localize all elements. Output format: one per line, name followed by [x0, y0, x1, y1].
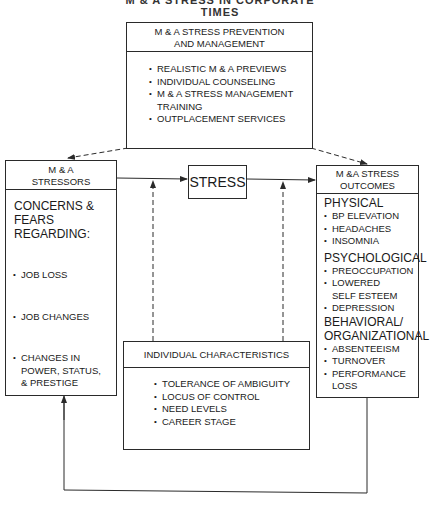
arrow-stress-to-outcomes [247, 179, 315, 180]
prevention-box-header: M & A STRESS PREVENTION AND MANAGEMENT [127, 23, 312, 52]
stressors-title-line1: M & A [6, 164, 116, 176]
list-item: LOCUS OF CONTROL [154, 391, 309, 404]
list-item: REALISTIC M & A PREVIEWS [149, 63, 312, 76]
stress-box: STRESS [188, 165, 247, 199]
list-item: NEED LEVELS [154, 403, 309, 416]
list-item: JOB LOSS [13, 269, 116, 282]
outcomes-content: PHYSICAL BP ELEVATION HEADACHES INSOMNIA… [317, 194, 418, 393]
outcomes-box-header: M &A STRESS OUTCOMES [317, 166, 418, 194]
list-item: TURNOVER [324, 355, 418, 368]
outcomes-title-line2: OUTCOMES [317, 180, 418, 192]
list-item: INDIVIDUAL COUNSELING [149, 76, 312, 89]
dashed-arrow-prevention-to-outcomes [311, 148, 367, 164]
list-item: INSOMNIA [324, 235, 418, 248]
individual-characteristics-box: INDIVIDUAL CHARACTERISTICS TOLERANCE OF … [123, 341, 310, 450]
list-item: CHANGES IN POWER, STATUS, & PRESTIGE [13, 352, 109, 390]
list-item: CAREER STAGE [154, 416, 309, 429]
individual-box-header: INDIVIDUAL CHARACTERISTICS [124, 342, 309, 368]
prevention-title-line2: AND MANAGEMENT [127, 38, 312, 50]
list-item: PERFORMANCE LOSS [324, 368, 407, 393]
individual-list: TOLERANCE OF AMBIGUITY LOCUS OF CONTROL … [154, 378, 309, 428]
outcomes-physical-list: BP ELEVATION HEADACHES INSOMNIA [324, 210, 418, 248]
outcomes-group-heading: PHYSICAL [324, 196, 418, 210]
outcomes-group-heading: BEHAVIORAL/ ORGANIZATIONAL [324, 315, 424, 343]
outcomes-behavioral-list: ABSENTEEISM TURNOVER PERFORMANCE LOSS [324, 343, 418, 393]
outcomes-box: M &A STRESS OUTCOMES PHYSICAL BP ELEVATI… [316, 165, 419, 398]
list-item: LOWERED SELF ESTEEM [324, 277, 404, 302]
list-item: PREOCCUPATION [324, 265, 418, 278]
list-item: DEPRESSION [324, 302, 418, 315]
stressors-title-line2: STRESSORS [6, 176, 116, 188]
list-item: BP ELEVATION [324, 210, 418, 223]
stressors-box: M & A STRESSORS CONCERNS & FEARS REGARDI… [5, 160, 117, 396]
prevention-title-line1: M & A STRESS PREVENTION [127, 26, 312, 38]
outcomes-title-line1: M &A STRESS [317, 168, 418, 180]
stressors-list: JOB LOSS JOB CHANGES CHANGES IN POWER, S… [13, 269, 116, 390]
list-item: ABSENTEEISM [324, 343, 418, 356]
stressors-intro: CONCERNS & FEARS REGARDING: [14, 199, 94, 241]
outcomes-psychological-list: PREOCCUPATION LOWERED SELF ESTEEM DEPRES… [324, 265, 418, 315]
list-item-text: M & A STRESS MANAGEMENT TRAINING [157, 88, 293, 112]
list-item: TOLERANCE OF AMBIGUITY [154, 378, 309, 391]
stressors-box-header: M & A STRESSORS [6, 161, 116, 190]
list-item: HEADACHES [324, 223, 418, 236]
arrow-stressors-to-stress [117, 178, 187, 179]
prevention-list: REALISTIC M & A PREVIEWS INDIVIDUAL COUN… [149, 63, 312, 126]
list-item: JOB CHANGES [13, 311, 116, 324]
list-item: OUTPLACEMENT SERVICES [149, 113, 312, 126]
outcomes-group-heading: PSYCHOLOGICAL [324, 251, 418, 265]
dashed-arrow-prevention-to-stressors [68, 148, 128, 158]
prevention-management-box: M & A STRESS PREVENTION AND MANAGEMENT R… [126, 22, 313, 149]
list-item: M & A STRESS MANAGEMENT TRAINING [149, 88, 297, 113]
stress-label: STRESS [189, 174, 245, 190]
